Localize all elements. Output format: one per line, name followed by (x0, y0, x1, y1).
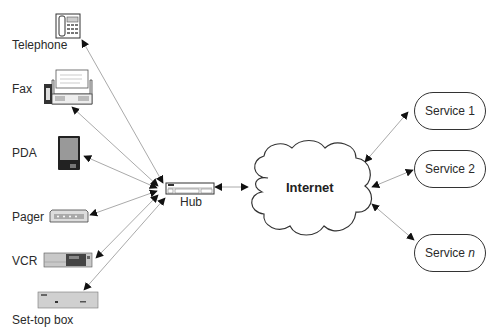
service-n-node: Service n (414, 234, 486, 272)
link-pda-hub (84, 156, 157, 188)
telephone-label: Telephone (12, 38, 67, 52)
service-2-label: Service 2 (425, 162, 475, 176)
pager-icon (50, 210, 88, 222)
link-telephone-hub (82, 40, 163, 183)
link-settop-hub (84, 198, 165, 290)
settop-box-label: Set-top box (12, 313, 73, 327)
link-fax-hub (72, 107, 158, 186)
fax-icon (44, 70, 92, 104)
fax-label: Fax (12, 82, 32, 96)
pda-icon (58, 136, 80, 170)
vcr-label: VCR (12, 254, 37, 268)
link-internet-service1 (365, 112, 408, 162)
service-n-label: Service n (425, 246, 475, 260)
link-vcr-hub (96, 195, 158, 258)
link-pager-hub (90, 191, 157, 215)
pda-label: PDA (12, 146, 37, 160)
link-internet-service2 (372, 170, 413, 187)
service-n-italic: n (468, 246, 475, 260)
link-internet-servicen (372, 204, 414, 240)
hub-label: Hub (180, 195, 202, 209)
internet-label: Internet (286, 180, 334, 195)
hub-icon (166, 183, 214, 194)
vcr-icon (44, 253, 92, 267)
service-2-node: Service 2 (414, 150, 486, 188)
settop-box-icon (38, 292, 98, 308)
service-n-prefix: Service (425, 246, 468, 260)
pager-label: Pager (12, 210, 44, 224)
telephone-icon (56, 14, 80, 38)
service-1-node: Service 1 (414, 92, 486, 130)
service-1-label: Service 1 (425, 104, 475, 118)
